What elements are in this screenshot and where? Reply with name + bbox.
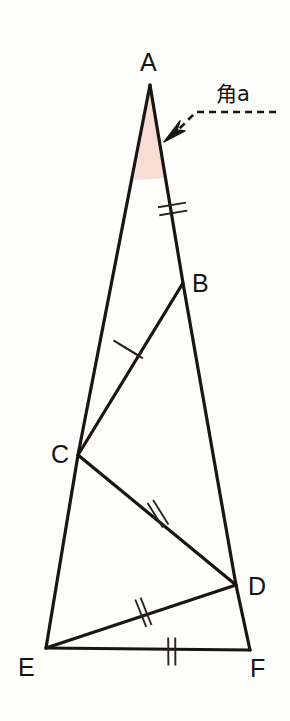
- segment-a-b-d-f: [150, 85, 250, 650]
- vertex-label-d: D: [248, 572, 266, 600]
- tick-bc: [114, 340, 143, 358]
- figure-canvas: A B C D E F 角a: [0, 0, 290, 721]
- segment-a-c-e: [46, 85, 150, 648]
- tick-ef: [168, 638, 175, 666]
- segment-d-e: [46, 585, 236, 648]
- vertex-label-f: F: [250, 654, 265, 682]
- tick-ab: [158, 203, 187, 216]
- segment-e-f: [46, 648, 250, 650]
- angle-a-label: 角a: [216, 82, 250, 106]
- vertex-label-e: E: [18, 653, 35, 681]
- vertex-label-a: A: [140, 48, 157, 76]
- vertex-label-c: C: [51, 440, 69, 468]
- segment-c-d: [78, 455, 236, 585]
- geometry-diagram: A B C D E F 角a: [0, 0, 290, 721]
- angle-a-arrowhead: [164, 121, 185, 142]
- vertex-label-b: B: [192, 269, 209, 297]
- angle-a-leader-line: [172, 112, 276, 136]
- angle-a-shaded-triangle: [134, 88, 166, 180]
